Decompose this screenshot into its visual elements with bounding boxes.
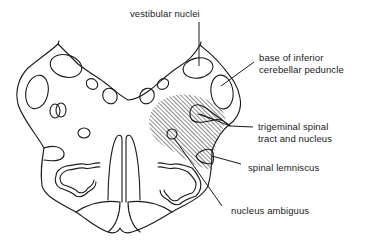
left-small-nucleus-1 bbox=[84, 76, 100, 91]
left-small-nucleus-2 bbox=[100, 86, 120, 107]
left-inferior-olive bbox=[55, 163, 100, 197]
right-pyramid-base bbox=[128, 201, 172, 232]
label-trigeminal-line1: trigeminal spinal bbox=[258, 121, 332, 133]
right-inferior-olive bbox=[158, 163, 201, 205]
right-vestibular-nucleus bbox=[181, 56, 214, 81]
label-icp-line2: cerebellar peduncle bbox=[259, 64, 344, 76]
right-pyramid-tract bbox=[126, 135, 140, 202]
left-paired-nucleus-b bbox=[56, 103, 66, 117]
label-trigeminal-line2: tract and nucleus bbox=[258, 133, 332, 145]
leader-lemniscus bbox=[212, 156, 241, 164]
label-spinal-lemniscus: spinal lemniscus bbox=[248, 162, 319, 174]
peak-right bbox=[200, 42, 201, 45]
peak-left bbox=[58, 41, 59, 44]
label-vestibular-nuclei: vestibular nuclei bbox=[130, 8, 200, 20]
hatched-lateral-region bbox=[149, 95, 225, 170]
right-small-nucleus-1 bbox=[155, 76, 171, 91]
left-pyramid-tract bbox=[108, 135, 122, 202]
pyramids bbox=[76, 135, 172, 232]
left-oval-nucleus bbox=[78, 128, 90, 138]
right-small-nucleus-2 bbox=[137, 86, 157, 107]
leader-icp bbox=[221, 62, 254, 86]
label-nucleus-ambiguus: nucleus ambiguus bbox=[231, 205, 309, 217]
left-vestibular-nucleus bbox=[48, 51, 85, 81]
left-structures bbox=[23, 51, 120, 197]
label-icp-line1: base of inferior bbox=[259, 52, 344, 64]
label-base-of-inferior-cerebellar-peduncle: base of inferior cerebellar peduncle bbox=[259, 52, 344, 75]
left-icp bbox=[23, 73, 52, 111]
label-trigeminal-spinal-tract-and-nucleus: trigeminal spinal tract and nucleus bbox=[258, 121, 332, 144]
left-lemniscus-region bbox=[44, 146, 64, 160]
